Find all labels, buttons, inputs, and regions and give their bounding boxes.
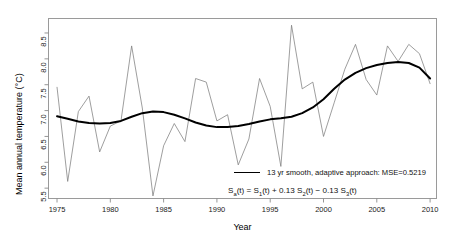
x-tick-label: 1995 <box>255 205 285 214</box>
x-tick-label: 1975 <box>42 205 72 214</box>
y-tick-label: 8.5 <box>38 31 47 51</box>
chart-legend: 13 yr smooth, adaptive approach: MSE=0.5… <box>234 168 426 177</box>
x-tick-label: 1990 <box>202 205 232 214</box>
y-tick-label: 8.0 <box>38 57 47 77</box>
chart-canvas <box>0 0 465 239</box>
chart-figure: Mean annual temperature (°C) Year 13 yr … <box>0 0 465 239</box>
series-smooth <box>57 62 430 127</box>
formula-annotation: Sa(t) = S1(t) + 0.13 S2(t) − 0.13 S3(t) <box>228 186 357 197</box>
x-axis-label: Year <box>183 222 303 232</box>
axis-ticks <box>45 33 431 203</box>
x-tick-label: 2010 <box>415 205 445 214</box>
legend-label: 13 yr smooth, adaptive approach: MSE=0.5… <box>267 168 426 177</box>
y-tick-label: 6.5 <box>38 135 47 155</box>
y-tick-label: 7.0 <box>38 109 47 129</box>
y-tick-label: 7.5 <box>38 83 47 103</box>
y-tick-label: 6.0 <box>38 161 47 181</box>
x-tick-label: 1985 <box>149 205 179 214</box>
x-tick-label: 2005 <box>362 205 392 214</box>
x-tick-label: 1980 <box>95 205 125 214</box>
legend-line-swatch <box>234 172 260 173</box>
x-tick-label: 2000 <box>309 205 339 214</box>
y-axis-label: Mean annual temperature (°C) <box>14 73 24 195</box>
